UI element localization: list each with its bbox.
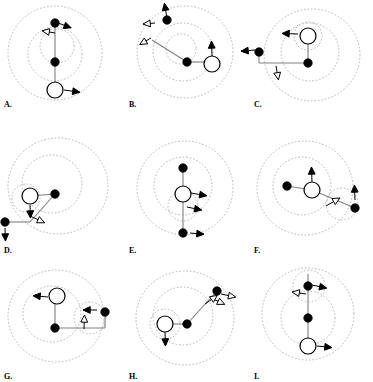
panel-f-graphic (250, 128, 373, 256)
velocity-arrow (143, 20, 155, 27)
filled-circle-node (283, 182, 291, 190)
velocity-arrow (308, 167, 315, 182)
node-group (49, 288, 109, 332)
orbit-group (137, 6, 233, 98)
open-circle-node (204, 56, 220, 72)
filled-circle-node (179, 229, 187, 237)
velocity-arrow (83, 307, 97, 314)
velocity-arrow (351, 185, 358, 200)
arrow-head (63, 22, 71, 28)
connector-group (287, 186, 355, 208)
panel-label-a: A. (4, 100, 12, 109)
arrow-head (308, 167, 315, 174)
panel-f: F. (250, 128, 373, 256)
open-circle-node (300, 338, 316, 354)
panel-e: E. (125, 128, 250, 256)
arrow-group (140, 3, 215, 56)
arrow-head (199, 191, 207, 198)
dotted-orbit-contour (166, 34, 196, 64)
panel-label-d: D. (4, 246, 12, 255)
dotted-orbit-contour (273, 157, 331, 215)
arrow-head (319, 283, 327, 290)
filled-circle-node (51, 190, 59, 198)
arrow-head (33, 293, 40, 300)
orbit-group (8, 138, 108, 234)
filled-circle-node (101, 308, 109, 316)
orbit-group (264, 9, 360, 101)
open-circle-node (22, 188, 38, 204)
arrow-head (162, 339, 169, 346)
filled-circle-node (183, 58, 191, 66)
velocity-arrow (221, 292, 236, 299)
arrow-head (140, 38, 148, 45)
filled-circle-node (183, 320, 191, 328)
panel-g-graphic (0, 256, 125, 382)
velocity-arrow (187, 205, 202, 212)
panel-e-graphic (125, 128, 250, 256)
arrow-head (209, 295, 217, 302)
panel-d: D. (0, 128, 125, 256)
filled-circle-node (304, 314, 312, 322)
panel-label-h: H. (129, 372, 137, 381)
velocity-arrow (58, 22, 71, 28)
velocity-arrow (282, 30, 298, 37)
arrow-head (208, 41, 215, 48)
arrow-head (2, 234, 9, 241)
panel-a-graphic (0, 0, 125, 128)
open-circle-node (300, 28, 316, 44)
velocity-arrow (140, 38, 151, 45)
panel-c-graphic (250, 0, 373, 128)
arrow-head (143, 20, 150, 27)
arrow-head (324, 343, 332, 350)
dotted-orbit-contour (136, 271, 234, 365)
arrow-head (83, 307, 90, 314)
velocity-arrow (317, 343, 332, 350)
open-circle-node (175, 186, 191, 202)
panel-grid: A.B.C.D.E.F.G.H.I. (0, 0, 373, 382)
arrow-group (42, 22, 80, 94)
velocity-arrow (292, 290, 306, 297)
velocity-arrow (208, 41, 215, 56)
filled-circle-node (51, 58, 59, 66)
filled-circle-node (304, 282, 312, 290)
filled-circle-node (304, 59, 312, 67)
arrow-head (37, 217, 45, 223)
panel-d-graphic (0, 128, 125, 256)
velocity-arrow (190, 230, 204, 237)
arrow-head (228, 292, 236, 299)
velocity-arrow (64, 88, 80, 95)
arrow-head (162, 3, 169, 11)
arrow-group (241, 30, 298, 79)
filled-circle-node (163, 16, 171, 24)
arrow-head (274, 72, 281, 80)
filled-circle-node (213, 287, 221, 295)
open-circle-node (49, 288, 65, 304)
node-group (157, 287, 221, 332)
velocity-arrow (162, 332, 169, 346)
panel-i: I. (250, 256, 373, 382)
panel-b: B. (125, 0, 250, 128)
arrow-head (81, 315, 88, 322)
panel-i-graphic (250, 256, 373, 382)
connector-group (165, 291, 217, 324)
dotted-orbit-contour (8, 138, 108, 234)
panel-label-b: B. (129, 100, 136, 109)
panel-label-i: I. (254, 372, 259, 381)
velocity-arrow (2, 228, 9, 241)
panel-label-e: E. (129, 246, 136, 255)
panel-h: H. (125, 256, 250, 382)
panel-g: G. (0, 256, 125, 382)
panel-label-f: F. (254, 246, 260, 255)
filled-circle-node (351, 204, 359, 212)
open-circle-node (157, 316, 173, 332)
panel-c: C. (250, 0, 373, 128)
open-circle-node (304, 182, 320, 198)
arrow-head (351, 185, 358, 192)
panel-label-c: C. (254, 100, 262, 109)
filled-circle-node (1, 218, 9, 226)
orbit-group (8, 270, 106, 362)
dotted-orbit-contour (8, 270, 104, 362)
velocity-arrow (274, 66, 281, 80)
arrow-head (282, 30, 289, 37)
velocity-arrow (81, 315, 88, 329)
